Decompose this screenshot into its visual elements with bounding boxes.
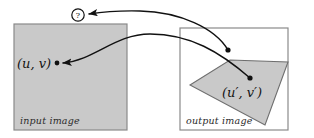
output-image-caption: output image — [186, 115, 253, 126]
diagram-canvas: input image (u, v) output image (u′, v′)… — [0, 0, 314, 138]
input-point-label: (u, v) — [17, 56, 51, 71]
query-marker-label: ? — [76, 11, 80, 20]
input-image-panel: input image (u, v) — [14, 24, 127, 130]
warping-diagram: input image (u, v) output image (u′, v′)… — [0, 0, 314, 138]
input-point-dot — [55, 61, 60, 66]
query-marker: ? — [72, 9, 84, 21]
output-point-label: (u′, v′) — [222, 85, 262, 100]
input-image-caption: input image — [20, 115, 80, 126]
